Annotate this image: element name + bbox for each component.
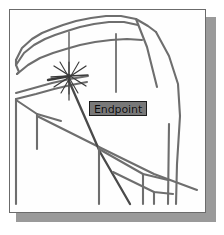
edge-long-floor-diagonal [37,116,197,190]
edge-roof-ridge-inner [16,22,138,65]
edge-roof-ridge-top [16,16,156,60]
endpoint-snap-tooltip: Endpoint [89,101,147,116]
drawing-viewport[interactable]: Endpoint [9,9,206,213]
snap-point-center [67,74,71,78]
edge-right-inner-vertical [168,124,169,204]
edge-right-wall-lower [176,116,180,204]
edge-right-wall-upper [156,32,180,116]
screenshot-root: Endpoint [0,0,224,235]
